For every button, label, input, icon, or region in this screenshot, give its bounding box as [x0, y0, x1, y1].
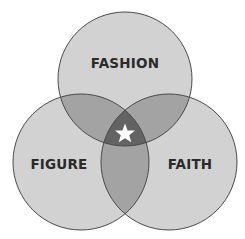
label-faith: FAITH — [168, 156, 213, 172]
venn-diagram: FASHION FIGURE FAITH — [0, 0, 245, 239]
label-figure: FIGURE — [30, 156, 87, 172]
label-fashion: FASHION — [91, 55, 159, 71]
